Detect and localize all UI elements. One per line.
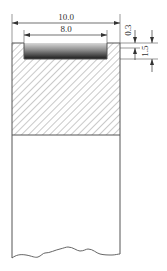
right-extension-lines: [120, 43, 158, 59]
dim-label-recess-depth: 0.3: [123, 24, 133, 36]
technical-drawing: 10.0 8.0 0.3 1.5: [0, 0, 167, 271]
dim-label-layer-depth: 1.5: [140, 45, 150, 57]
dimension-recess-width: 8.0: [24, 24, 107, 43]
recess-region: [24, 43, 107, 59]
dim-label-recess-width: 8.0: [60, 24, 72, 34]
dimension-recess-depth: 0.3: [123, 24, 135, 60]
dimension-layer-depth: 1.5: [140, 30, 152, 72]
break-line: [12, 247, 120, 258]
dim-label-overall-width: 10.0: [58, 12, 74, 22]
